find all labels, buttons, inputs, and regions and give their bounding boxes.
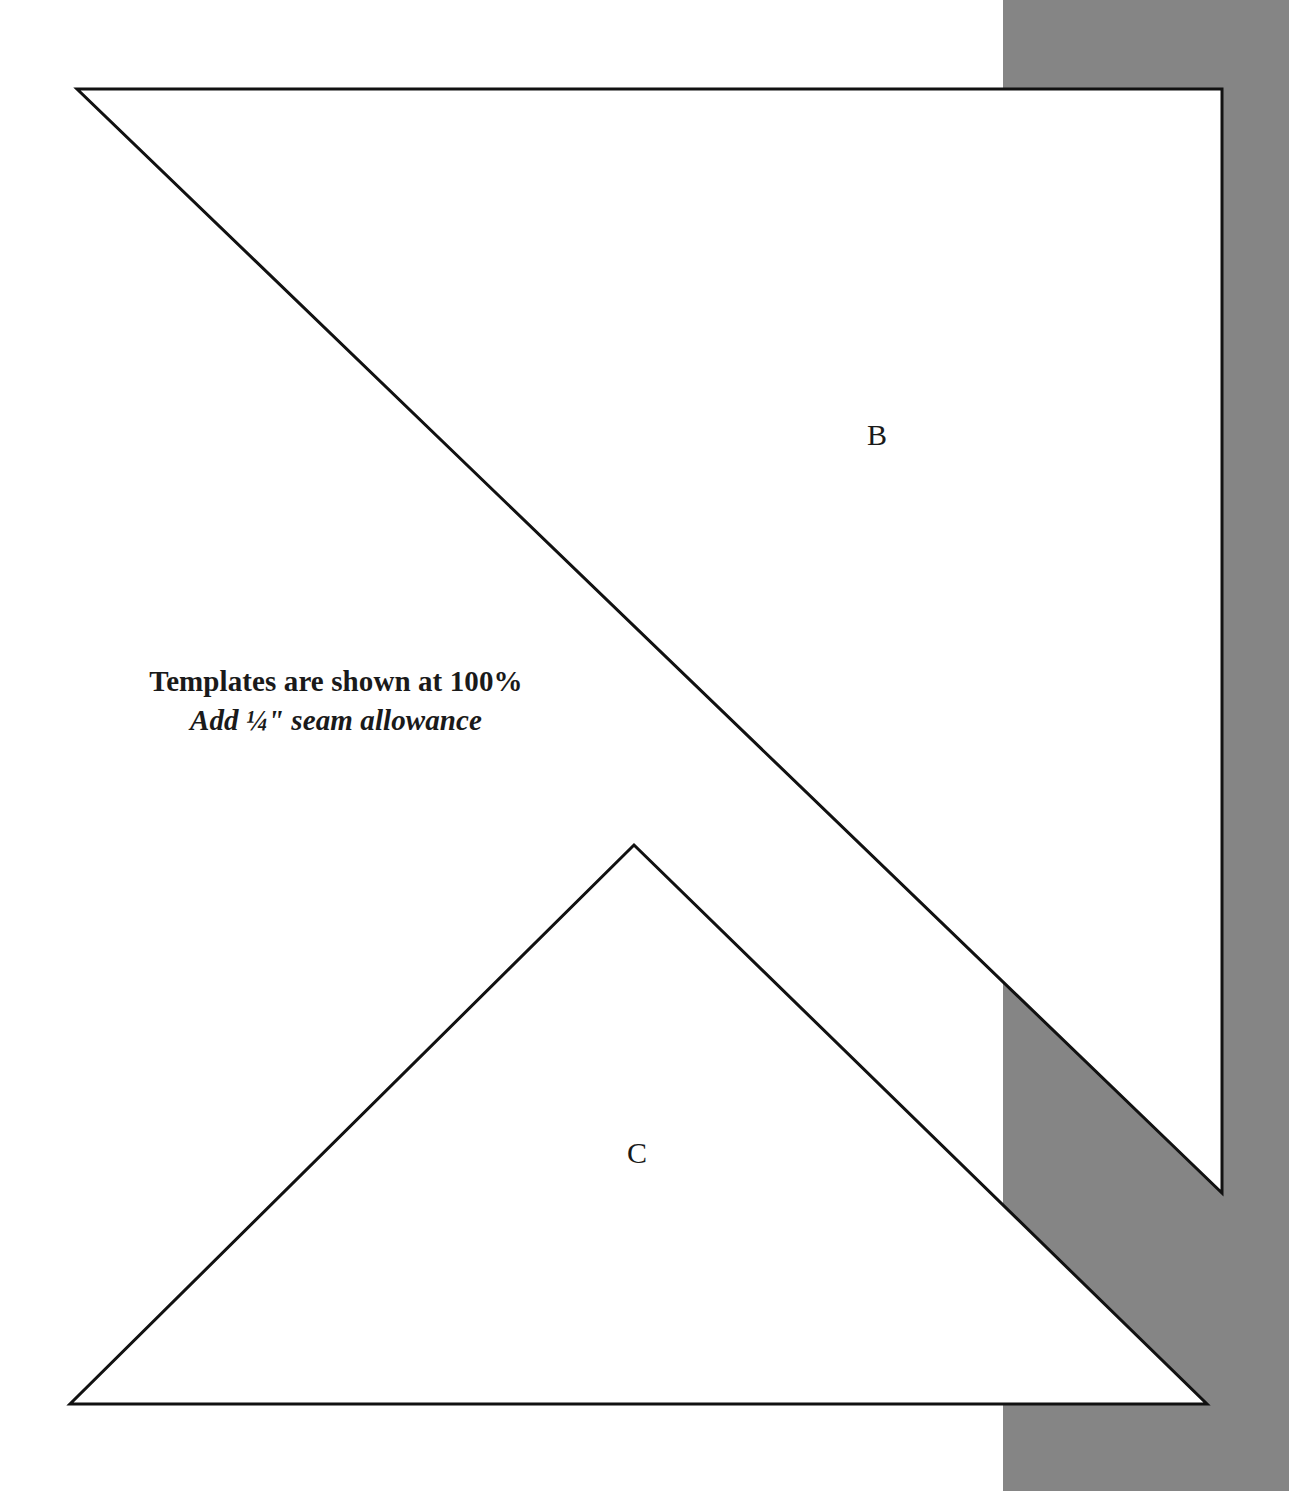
template-drawing-canvas [0,0,1289,1491]
template-sheet: B C Templates are shown at 100% Add ¼" s… [0,0,1289,1491]
instructions-seam-allowance-note: Add ¼" seam allowance [96,701,576,740]
template-label-b: B [853,420,901,450]
instructions-block: Templates are shown at 100% Add ¼" seam … [96,662,576,740]
instructions-scale-note: Templates are shown at 100% [96,662,576,701]
template-label-c: C [613,1138,661,1168]
